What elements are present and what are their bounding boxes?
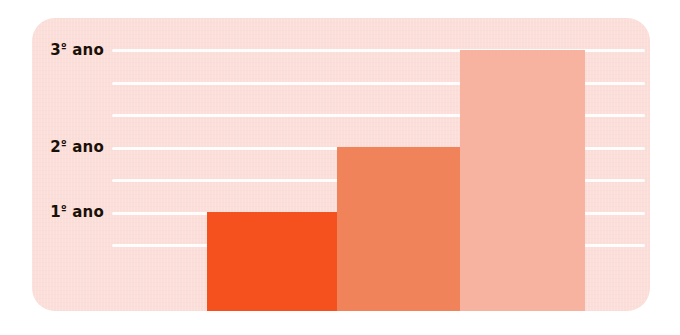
y-axis-label-1-ano-unit: ano [72,203,104,221]
bar-3-ano [460,50,585,311]
chart-plot-panel [32,18,650,311]
ordinal-indicator-icon: º [61,42,67,53]
y-axis-label-3-ano-unit: ano [72,41,104,59]
y-axis-label-2-ano-unit: ano [72,138,104,156]
y-axis-label-1-ano-number: 1 [50,203,61,221]
y-axis-label-3-ano-number: 3 [50,41,61,59]
bar-2-ano [337,147,460,311]
ordinal-indicator-icon: º [61,204,67,215]
bar-1-ano [207,212,337,311]
y-axis-label-2-ano: 2º ano [50,138,104,156]
bar-chart-figure: 3º ano 2º ano 1º ano [0,0,680,335]
ordinal-indicator-icon: º [61,139,67,150]
y-axis-label-2-ano-number: 2 [50,138,61,156]
y-axis-label-3-ano: 3º ano [50,41,104,59]
y-axis-label-group: 3º ano 2º ano 1º ano [0,0,104,335]
y-axis-label-1-ano: 1º ano [50,203,104,221]
